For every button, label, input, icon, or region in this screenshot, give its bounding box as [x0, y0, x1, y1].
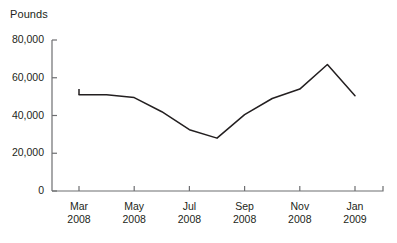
x-axis-tick-label: Nov2008	[272, 200, 328, 226]
x-axis-tick-year: 2008	[106, 213, 162, 226]
x-axis-tick-label: Jan2009	[327, 200, 383, 226]
x-axis-tick-year: 2008	[217, 213, 273, 226]
y-axis-tick-label: 0	[0, 184, 44, 196]
y-axis-tick-label: 40,000	[0, 109, 44, 121]
chart-axes	[52, 40, 383, 191]
x-axis-line	[52, 186, 383, 191]
x-axis-tick-month: Nov	[272, 200, 328, 213]
y-axis-tick-label: 60,000	[0, 71, 44, 83]
x-axis-tick-label: May2008	[106, 200, 162, 226]
x-axis-tick-month: May	[106, 200, 162, 213]
x-axis-tick-year: 2008	[272, 213, 328, 226]
x-axis-tick-month: Sep	[217, 200, 273, 213]
x-axis-tick-month: Mar	[51, 200, 107, 213]
line-chart-figure: Pounds 020,00040,00060,00080,000 Mar2008…	[0, 0, 397, 243]
x-axis-tick-month: Jul	[161, 200, 217, 213]
y-axis-tick-label: 80,000	[0, 33, 44, 45]
x-axis-tick-label: Mar2008	[51, 200, 107, 226]
data-series-group	[79, 65, 355, 139]
x-axis-tick-year: 2008	[161, 213, 217, 226]
y-axis-tick-label: 20,000	[0, 146, 44, 158]
y-axis-ticks	[52, 40, 57, 191]
x-axis-tick-year: 2008	[51, 213, 107, 226]
x-axis-tick-label: Sep2008	[217, 200, 273, 226]
data-line-pounds	[79, 65, 355, 139]
x-axis-tick-label: Jul2008	[161, 200, 217, 226]
x-axis-tick-year: 2009	[327, 213, 383, 226]
x-axis-ticks	[79, 186, 355, 191]
x-axis-tick-month: Jan	[327, 200, 383, 213]
